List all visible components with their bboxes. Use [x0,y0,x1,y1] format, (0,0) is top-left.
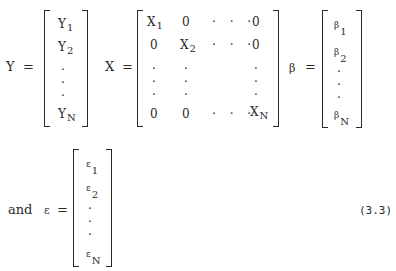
x-vdot-col4-3: · [254,89,258,101]
beta-entry-1: β1 [334,18,347,36]
x-vdot-col1-1: · [152,63,156,75]
epsilon-vdot-3: · [88,229,92,241]
x-vdot-col1-2: · [152,76,156,88]
x-equals-sign: = [122,60,133,74]
x-vdot-col2-2: · [184,76,188,88]
y-left-bracket [44,10,50,127]
y-right-bracket [82,10,88,127]
beta-left-bracket [322,10,328,128]
x-cell-2-3: · · · [212,38,256,52]
x-symbol: X [105,60,114,74]
beta-vdot-2: · [337,79,341,91]
y-vdot-3: · [61,90,65,102]
x-cell-1-1: X1 [147,15,163,30]
y-vdot-2: · [61,77,65,89]
epsilon-left-bracket [73,149,79,267]
x-cell-2-2: X2 [180,38,196,53]
x-vdot-col2-3: · [184,89,188,101]
y-entry-n: YN [58,107,76,122]
beta-entry-n: βN [334,108,349,126]
y-symbol: Y [6,60,15,74]
y-vdot-1: · [61,64,65,76]
epsilon-entry-1: ε1 [86,157,98,175]
beta-equals-sign: = [305,60,316,74]
x-vdot-col4-1: · [254,63,258,75]
x-vdot-col2-1: · [184,63,188,75]
x-cell-n-1: 0 [150,107,158,121]
equation-number: (3.3) [359,204,392,218]
y-entry-2: Y2 [58,40,73,55]
x-cell-2-4: 0 [252,38,260,52]
epsilon-entry-n: εN [86,247,100,265]
x-left-bracket [137,10,143,127]
epsilon-right-bracket [106,149,112,267]
epsilon-vdot-1: · [88,203,92,215]
x-cell-1-3: · · · [212,15,256,29]
x-cell-2-1: 0 [150,38,158,52]
beta-vdot-3: · [337,92,341,104]
x-vdot-col1-3: · [152,89,156,101]
epsilon-equals-sign: = [57,203,68,217]
and-connector: and [8,203,32,217]
beta-entry-2: β2 [334,45,347,63]
x-cell-n-2: 0 [182,107,190,121]
beta-symbol: β [289,62,295,76]
x-vdot-col4-2: · [254,76,258,88]
y-equals-sign: = [23,60,34,74]
x-cell-1-2: 0 [182,15,190,29]
x-cell-n-4: XN [250,105,268,120]
beta-vdot-1: · [337,66,341,78]
epsilon-vdot-2: · [88,216,92,228]
beta-right-bracket [356,10,362,128]
y-entry-1: Y1 [58,17,73,32]
epsilon-symbol: ε [44,204,50,218]
x-right-bracket [273,10,279,127]
x-cell-1-4: 0 [252,15,260,29]
epsilon-entry-2: ε2 [86,181,98,199]
